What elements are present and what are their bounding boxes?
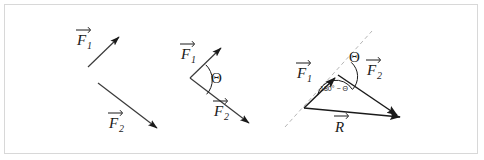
f2-subscript-panel3: 2 [377, 70, 382, 81]
panel-tail-to-tail: F 1 Θ F 2 [180, 41, 249, 123]
f1-symbol-panel1: F [76, 32, 87, 48]
f2-symbol-panel1: F [108, 115, 119, 131]
f2-subscript-panel1: 2 [119, 123, 124, 134]
vector-f2-label-panel1: F 2 [108, 110, 124, 134]
f1-subscript-panel2: 1 [191, 54, 196, 65]
f2-symbol-panel3: F [366, 62, 377, 78]
figure-canvas: F 1 F 2 F 1 Θ [0, 0, 484, 160]
panel-resultant-triangle: F 1 Θ 180° − Θ F 2 R [285, 31, 400, 135]
f2-subscript-panel2: 2 [224, 111, 229, 122]
f1-symbol-panel2: F [180, 46, 191, 62]
angle-theta-label-panel3: Θ [349, 49, 360, 65]
r-symbol-panel3: R [334, 119, 344, 135]
vector-r-arrow-panel3 [304, 108, 400, 117]
f1-subscript-panel1: 1 [87, 40, 92, 51]
vector-f2-arrow-panel1 [98, 83, 157, 128]
panel-separate-vectors: F 1 F 2 [76, 27, 157, 134]
vector-f1-label-panel2: F 1 [180, 41, 196, 65]
angle-theta-label-panel2: Θ [211, 70, 222, 86]
vector-f1-arrow-panel1 [88, 37, 119, 67]
f1-symbol-panel3: F [296, 65, 307, 81]
f2-symbol-panel2: F [213, 103, 224, 119]
vector-f2-label-panel3: F 2 [366, 57, 382, 81]
vector-addition-figure: F 1 F 2 F 1 Θ [0, 0, 484, 160]
vector-f2-arrow-panel3 [338, 75, 397, 115]
supplementary-angle-label-panel3: 180° − Θ [320, 85, 348, 92]
vector-f1-label-panel1: F 1 [76, 27, 92, 51]
vector-r-label-panel3: R [334, 113, 349, 135]
vector-f1-label-panel3: F 1 [296, 60, 312, 84]
f1-subscript-panel3: 1 [307, 73, 312, 84]
